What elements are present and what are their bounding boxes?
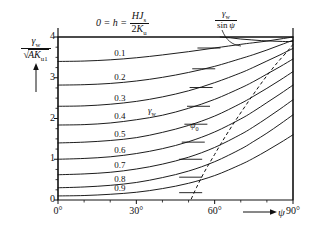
- curve-0-5: [58, 72, 293, 143]
- x-tick-label: 30°: [125, 206, 147, 216]
- curve-label-0-1: 0.1: [114, 49, 125, 58]
- gamma-sin-denominator: sin ψ: [215, 21, 237, 30]
- gamma-over-sin-curve: [220, 37, 293, 42]
- x-tick-label: 60°: [204, 206, 226, 216]
- curve-label-0-4: 0.4: [114, 112, 125, 121]
- curve-0-4: [58, 59, 293, 125]
- title-formula: 0 = h = HJs 2Ku: [96, 11, 149, 36]
- x-tick-label: 0°: [47, 206, 69, 216]
- gamma-w-annotation: γw: [148, 106, 156, 117]
- data-curves: [58, 37, 293, 196]
- curve-label-0-6: 0.6: [114, 146, 125, 155]
- x-tick-label: 90°: [282, 206, 304, 216]
- curve-0-2: [58, 40, 293, 85]
- curve-label-0-3: 0.3: [114, 94, 125, 103]
- psi0-annotation: ψ0: [190, 121, 199, 132]
- ylabel-denominator: √AKu1: [21, 49, 50, 62]
- curve-0-7: [58, 100, 293, 175]
- title-prefix: 0 = h =: [96, 17, 127, 28]
- title-fraction: HJs 2Ku: [130, 11, 149, 36]
- curve-label-0-9: 0.9: [114, 184, 125, 193]
- y-tick-label: 3: [46, 72, 55, 82]
- gamma-sin-fraction: γw sin ψ: [215, 9, 237, 31]
- title-denominator: 2Ku: [130, 24, 149, 36]
- gamma-over-sin-annotation: γw sin ψ: [215, 9, 237, 31]
- axes: [33, 28, 293, 215]
- y-tick-label: 2: [46, 113, 55, 123]
- chart-figure: 0 = h = HJs 2Ku γw √AKu1 ψ γw sin ψ γw ψ…: [0, 0, 315, 233]
- y-tick-label: 0: [46, 194, 55, 204]
- curve-0-3: [58, 48, 293, 106]
- y-tick-label: 4: [46, 31, 55, 41]
- y-tick-label: 1: [46, 153, 55, 163]
- curve-label-0-2: 0.2: [114, 73, 125, 82]
- curve-label-0-7: 0.7: [114, 161, 125, 170]
- curve-label-0-8: 0.8: [114, 175, 125, 184]
- curve-label-0-5: 0.5: [114, 130, 125, 139]
- envelope-path: [220, 37, 293, 42]
- curve-0-6: [58, 85, 293, 159]
- curve-0-8: [58, 115, 293, 188]
